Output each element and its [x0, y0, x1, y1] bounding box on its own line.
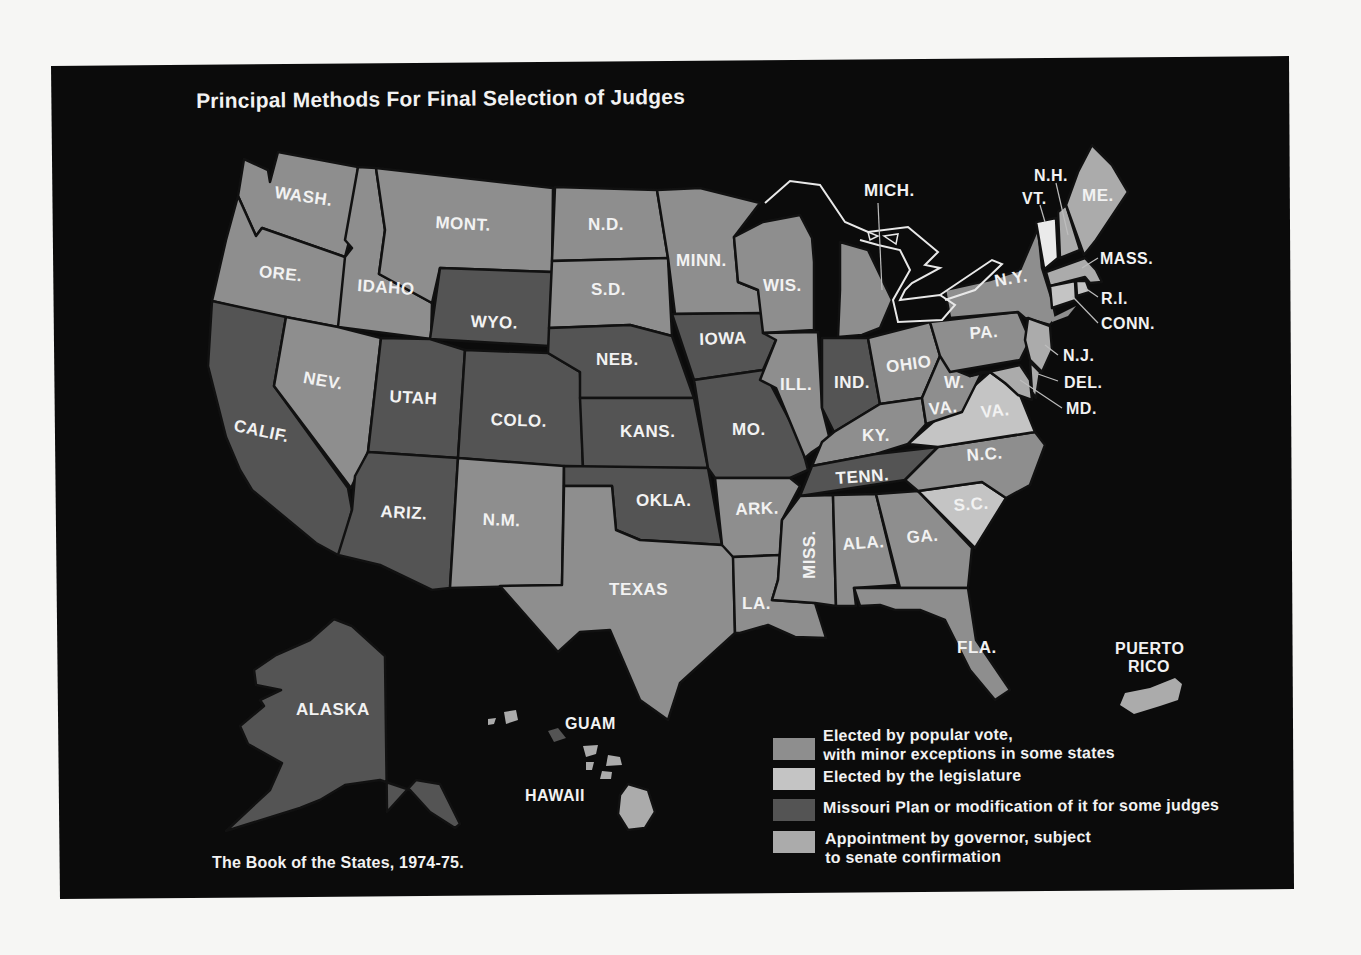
label-nm: N.M. — [482, 510, 521, 531]
label-la: LA. — [742, 594, 771, 614]
state-wyo — [430, 268, 552, 346]
label-wva-line2: VA. — [928, 397, 959, 420]
label-miss: MISS. — [800, 530, 820, 579]
legend-swatch-legislature — [773, 768, 815, 790]
legend-label-line2: with minor exceptions in some states — [823, 743, 1115, 764]
legend-swatch-appointment — [773, 831, 815, 853]
label-sd: S.D. — [591, 280, 626, 300]
label-texas: TEXAS — [609, 580, 668, 600]
label-wis: WIS. — [763, 276, 802, 296]
label-utah: UTAH — [389, 387, 438, 409]
label-mich: MICH. — [864, 181, 915, 201]
label-mass: MASS. — [1100, 250, 1153, 268]
legend-swatch-missouri-plan — [773, 799, 815, 821]
label-kans: KANS. — [620, 422, 675, 442]
legend-label-line2: to senate confirmation — [825, 846, 1091, 867]
label-mo: MO. — [732, 420, 766, 440]
legend-label-line1: Appointment by governor, subject — [825, 827, 1091, 848]
label-nd: N.D. — [588, 215, 624, 235]
legend-label-line1: Elected by the legislature — [823, 766, 1021, 786]
label-ky: KY. — [862, 426, 890, 446]
label-va: VA. — [980, 400, 1011, 423]
label-nc: N.C. — [966, 443, 1003, 465]
label-hawaii: HAWAII — [525, 787, 585, 805]
map-figure: Principal Methods For Final Selection of… — [0, 0, 1361, 955]
label-ark: ARK. — [735, 498, 779, 520]
label-tenn: TENN. — [835, 465, 890, 489]
legend-item-appointment: Appointment by governor, subject to sena… — [825, 827, 1091, 867]
label-mont: MONT. — [435, 213, 491, 236]
source-caption: The Book of the States, 1974-75. — [212, 854, 464, 872]
label-ala: ALA. — [842, 532, 885, 555]
label-ill: ILL. — [780, 375, 812, 395]
map-title: Principal Methods For Final Selection of… — [196, 85, 685, 113]
label-okla: OKLA. — [636, 491, 691, 511]
legend-item-popular-vote: Elected by popular vote, with minor exce… — [823, 724, 1115, 764]
label-ga: GA. — [906, 526, 939, 548]
legend-label-line1: Elected by popular vote, — [823, 724, 1115, 745]
label-md: MD. — [1066, 400, 1097, 418]
label-iowa: IOWA — [699, 328, 747, 350]
label-vt: VT. — [1022, 190, 1047, 208]
label-wva-line1: W. — [944, 373, 965, 393]
label-puerto-rico-line2: RICO — [1128, 658, 1170, 676]
label-wyo: WYO. — [470, 312, 518, 334]
label-colo: COLO. — [490, 410, 547, 432]
label-ind: IND. — [834, 373, 870, 393]
legend-item-legislature: Elected by the legislature — [823, 766, 1021, 786]
label-pa: PA. — [969, 322, 999, 344]
state-colo — [458, 350, 583, 468]
label-fla: FLA. — [957, 638, 997, 658]
label-neb: NEB. — [596, 350, 639, 370]
label-del: DEL. — [1064, 374, 1102, 392]
label-guam: GUAM — [565, 715, 616, 733]
label-minn: MINN. — [676, 251, 727, 271]
label-idaho: IDAHO — [357, 276, 416, 300]
legend-label-line1: Missouri Plan or modification of it for … — [823, 795, 1219, 817]
state-ri — [1076, 281, 1090, 296]
label-ri: R.I. — [1101, 290, 1128, 308]
label-nj: N.J. — [1063, 347, 1094, 365]
label-puerto-rico-line1: PUERTO — [1115, 640, 1184, 658]
island-hawaii-big — [618, 784, 655, 830]
label-sc: S.C. — [953, 494, 989, 516]
label-ariz: ARIZ. — [380, 502, 428, 524]
island-hawaii-4 — [600, 771, 612, 779]
legend-swatch-popular-vote — [773, 738, 815, 760]
label-conn: CONN. — [1101, 315, 1155, 333]
legend-item-missouri-plan: Missouri Plan or modification of it for … — [823, 795, 1219, 817]
label-alaska: ALASKA — [296, 700, 370, 720]
label-nh: N.H. — [1034, 167, 1068, 185]
label-me: ME. — [1082, 186, 1114, 206]
